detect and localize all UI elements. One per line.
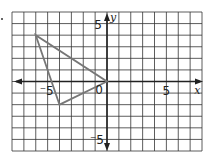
x-tick-label-neg5: ⁻5 [40,84,54,98]
y-tick-label-pos5: 5 [94,18,102,32]
y-axis-label: y [109,11,117,24]
coordinate-grid: ⁻5 0 5 x 5 y ⁻5 [0,0,214,165]
axis-labels: ⁻5 0 5 x 5 y ⁻5 [40,11,202,148]
axes [14,13,203,151]
x-tick-label-pos5: 5 [163,84,171,98]
x-axis-label: x [194,84,201,97]
origin-label: 0 [95,83,103,97]
y-tick-label-neg5: ⁻5 [90,133,104,147]
x-axis-left-arrow-icon [14,79,22,85]
y-axis-down-arrow-icon [104,143,110,151]
